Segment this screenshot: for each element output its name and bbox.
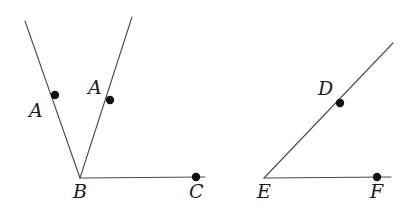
point-d-dot [336,99,344,107]
point-label-b: B [73,182,87,201]
point-label-e: E [257,182,271,201]
left-angle-group [25,17,205,181]
point-a-right-dot [106,96,114,104]
point-a-left-dot [51,91,59,99]
point-label-f: F [370,182,383,201]
geometry-figure: A A B C D E F [0,0,410,219]
right-angle-group [264,43,393,181]
ray-b-to-c-line [80,177,205,178]
point-label-a-left: A [29,101,43,120]
geometry-canvas [0,0,410,219]
point-label-d: D [318,79,333,98]
ray-e-to-d-line [264,43,393,178]
point-label-c: C [189,182,204,201]
point-label-a-right: A [88,78,102,97]
ray-e-to-f-line [264,177,391,178]
